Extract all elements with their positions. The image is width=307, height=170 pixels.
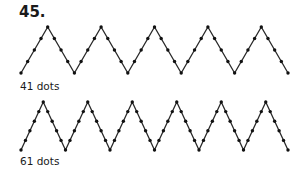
zigzag-61-dots — [19, 100, 289, 151]
caption-41-dots: 41 dots — [20, 80, 59, 92]
caption-61-dots: 61 dots — [20, 155, 59, 167]
zigzag-41-dots — [19, 25, 289, 74]
